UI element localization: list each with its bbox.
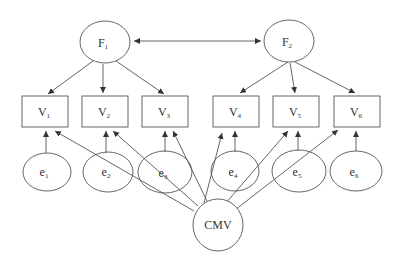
label-e2: e2 <box>102 165 111 180</box>
loading-arrow-f1-v1 <box>48 61 93 94</box>
method-arrow-cmv-v1 <box>55 131 194 211</box>
error-node-e4 <box>211 151 259 191</box>
label-e4: e4 <box>229 165 238 180</box>
label-e5: e5 <box>293 165 302 180</box>
label-cmv: CMV <box>204 218 232 232</box>
diagram-canvas: F1 F2 V1 V2 V3 V4 V5 V6 e1 e2 e3 e4 e5 e… <box>0 0 400 262</box>
loading-arrow-f2-v6 <box>295 62 355 93</box>
error-node-e6 <box>330 151 382 191</box>
label-e1: e1 <box>40 165 49 180</box>
error-node-e5 <box>272 150 326 192</box>
loading-arrow-f1-v3 <box>116 61 164 94</box>
sem-diagram: F1 F2 V1 V2 V3 V4 V5 V6 e1 e2 e3 e4 e5 e… <box>0 0 400 262</box>
error-node-e3 <box>138 151 192 193</box>
loading-arrow-f2-v4 <box>240 62 288 93</box>
method-arrow-cmv-v2 <box>113 131 198 206</box>
label-e6: e6 <box>350 165 359 180</box>
factor-node-f2 <box>264 20 314 62</box>
method-arrow-cmv-v4 <box>204 133 222 203</box>
method-arrow-cmv-v6 <box>222 130 338 220</box>
label-e3: e3 <box>159 166 168 181</box>
loading-arrow-f2-v5 <box>290 63 295 93</box>
factor-node-f1 <box>80 21 130 63</box>
